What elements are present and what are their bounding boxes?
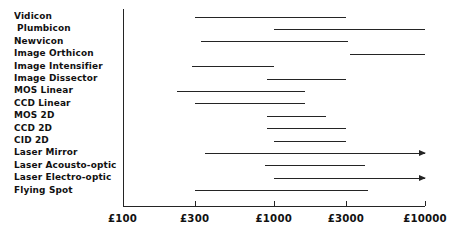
- category-label-ccd-linear: CCD Linear: [14, 98, 71, 108]
- category-label-mos-linear: MOS Linear: [14, 85, 73, 95]
- x-tick-mark-10000: [425, 201, 426, 206]
- range-bar-laser-electro-optic: [274, 178, 425, 179]
- x-tick-mark-3000: [346, 201, 347, 206]
- category-label-mos-2d: MOS 2D: [14, 110, 55, 120]
- category-label-image-orthicon: Image Orthicon: [14, 48, 94, 58]
- range-bar-plumbicon: [274, 29, 425, 30]
- x-tick-label-300: £300: [180, 213, 209, 224]
- category-label-newvicon: Newvicon: [14, 36, 64, 46]
- range-bar-cid-2d: [274, 141, 346, 142]
- category-label-laser-mirror: Laser Mirror: [14, 147, 78, 157]
- range-bar-laser-mirror: [205, 153, 425, 154]
- range-bar-image-dissector: [267, 79, 346, 80]
- x-tick-mark-100: [123, 201, 124, 206]
- x-tick-label-1000: £1000: [256, 213, 292, 224]
- category-label-flying-spot: Flying Spot: [14, 185, 73, 195]
- y-axis-line: [123, 9, 124, 206]
- x-axis-line: [123, 206, 426, 207]
- range-bar-flying-spot: [195, 190, 368, 191]
- x-tick-label-3000: £3000: [328, 213, 364, 224]
- category-label-ccd-2d: CCD 2D: [14, 123, 52, 133]
- range-bar-laser-acousto-optic: [265, 165, 364, 166]
- category-label-laser-electro-optic: Laser Electro-optic: [14, 172, 111, 182]
- range-bar-vidicon: [195, 17, 346, 18]
- x-tick-label-100: £100: [108, 213, 137, 224]
- range-bar-image-intensifier: [192, 66, 273, 67]
- arrow-right-icon-laser-mirror: [419, 150, 426, 156]
- range-bar-newvicon: [201, 41, 348, 42]
- range-bar-ccd-2d: [267, 128, 346, 129]
- range-bar-mos-2d: [267, 116, 326, 117]
- x-tick-mark-1000: [274, 201, 275, 206]
- category-label-image-intensifier: Image Intensifier: [14, 61, 103, 71]
- category-label-image-dissector: Image Dissector: [14, 73, 98, 83]
- x-tick-mark-300: [195, 201, 196, 206]
- arrow-right-icon-laser-electro-optic: [419, 175, 426, 181]
- range-bar-mos-linear: [177, 91, 304, 92]
- range-bar-image-orthicon: [350, 54, 425, 55]
- range-bar-ccd-linear: [195, 103, 305, 104]
- category-label-vidicon: Vidicon: [14, 11, 52, 21]
- x-tick-label-10000: £10000: [403, 213, 447, 224]
- category-label-plumbicon: Plumbicon: [17, 23, 71, 33]
- category-label-laser-acousto-optic: Laser Acousto-optic: [14, 160, 117, 170]
- price-range-chart: VidiconPlumbiconNewviconImage OrthiconIm…: [0, 0, 454, 241]
- category-label-cid-2d: CID 2D: [14, 135, 49, 145]
